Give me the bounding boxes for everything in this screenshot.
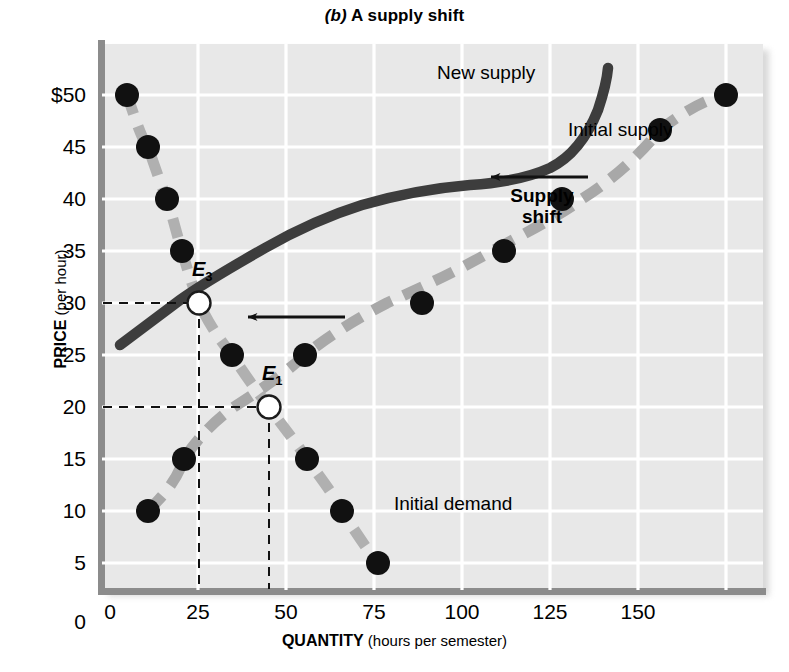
data-point <box>714 83 738 107</box>
plot-graphics <box>0 0 789 672</box>
x-axis-title-unit: (hours per semester) <box>364 632 507 649</box>
equilibrium-label-e1-letter: E <box>262 362 275 384</box>
supply-shift-label: Supply shift <box>492 185 592 228</box>
y-tick-label: 35 <box>6 239 86 263</box>
data-point <box>136 499 160 523</box>
equilibrium-label-e1-sub: 1 <box>275 373 282 388</box>
x-tick-label: 150 <box>598 600 678 624</box>
data-point <box>330 499 354 523</box>
y-axis-title-unit: (per hour) <box>52 250 69 320</box>
data-point <box>172 447 196 471</box>
supply-shift-label-line1: Supply <box>510 185 573 206</box>
y-tick-label: 20 <box>6 395 86 419</box>
y-axis-title-bold: PRICE <box>52 320 69 369</box>
y-tick-label: $50 <box>6 83 86 107</box>
data-point <box>410 291 434 315</box>
supply-shift-figure: (b) A supply shift <box>0 0 789 672</box>
x-tick-label: 0 <box>70 600 150 624</box>
initial-supply-label: Initial supply <box>568 119 673 141</box>
equilibrium-marker-e3 <box>188 292 211 315</box>
x-tick-label: 125 <box>510 600 590 624</box>
equilibrium-label-e3: E3 <box>192 258 213 284</box>
y-tick-label: 15 <box>6 447 86 471</box>
x-axis-title-bold: QUANTITY <box>282 632 364 649</box>
x-tick-label: 25 <box>158 600 238 624</box>
y-tick-label: 25 <box>6 343 86 367</box>
data-point <box>115 83 139 107</box>
x-tick-label: 50 <box>246 600 326 624</box>
x-tick-label: 75 <box>334 600 414 624</box>
data-point <box>366 551 390 575</box>
y-tick-label: 10 <box>6 499 86 523</box>
data-point <box>136 135 160 159</box>
data-point <box>492 239 516 263</box>
y-tick-label: 5 <box>6 551 86 575</box>
equilibrium-label-e3-letter: E <box>192 258 205 280</box>
y-axis-title: PRICE (per hour) <box>52 214 70 404</box>
data-point <box>170 239 194 263</box>
data-point <box>220 343 244 367</box>
initial-demand-curve <box>127 95 378 563</box>
data-point <box>295 447 319 471</box>
initial-demand-label: Initial demand <box>394 493 512 515</box>
equilibrium-guides <box>103 303 269 589</box>
equilibrium-label-e1: E1 <box>262 362 283 388</box>
new-supply-label: New supply <box>437 62 535 84</box>
y-tick-label: 45 <box>6 135 86 159</box>
supply-shift-label-line2: shift <box>522 206 562 227</box>
data-point <box>293 343 317 367</box>
equilibrium-label-e3-sub: 3 <box>205 269 212 284</box>
x-axis-title: QUANTITY (hours per semester) <box>0 632 789 650</box>
data-point <box>155 187 179 211</box>
equilibrium-marker-e1 <box>258 396 281 419</box>
y-tick-label: 30 <box>6 291 86 315</box>
y-tick-label: 40 <box>6 187 86 211</box>
x-tick-label: 100 <box>422 600 502 624</box>
